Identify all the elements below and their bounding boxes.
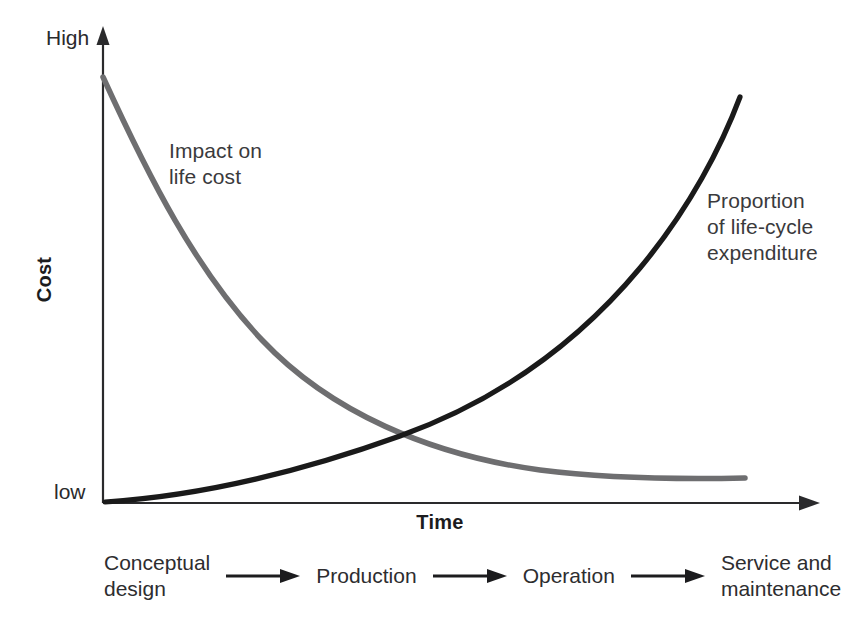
stage-label-production: Production <box>316 563 416 589</box>
y-axis-top-tick-label: High <box>46 26 89 50</box>
flow-arrow-icon <box>226 567 300 585</box>
y-axis <box>97 26 110 503</box>
y-axis-title: Cost <box>33 230 56 330</box>
y-axis-bottom-tick-label: low <box>54 480 86 504</box>
stage-label-conceptual-design: Conceptual design <box>104 550 210 602</box>
flow-arrow-icon <box>433 567 507 585</box>
lifecycle-stage-flow: Conceptual design Production Operation S… <box>104 545 834 607</box>
flow-arrow-icon <box>631 567 705 585</box>
x-axis-title: Time <box>390 511 490 534</box>
stage-label-operation: Operation <box>523 563 615 589</box>
stage-label-service-and-maintenance: Service and maintenance <box>721 550 841 602</box>
chart-figure: High low Cost Time Impact on life cost P… <box>0 0 841 626</box>
annotation-proportion-of-life-cycle-expenditure: Proportion of life-cycle expenditure <box>707 188 818 266</box>
annotation-impact-on-life-cost: Impact on life cost <box>169 138 262 190</box>
x-axis <box>103 496 820 511</box>
